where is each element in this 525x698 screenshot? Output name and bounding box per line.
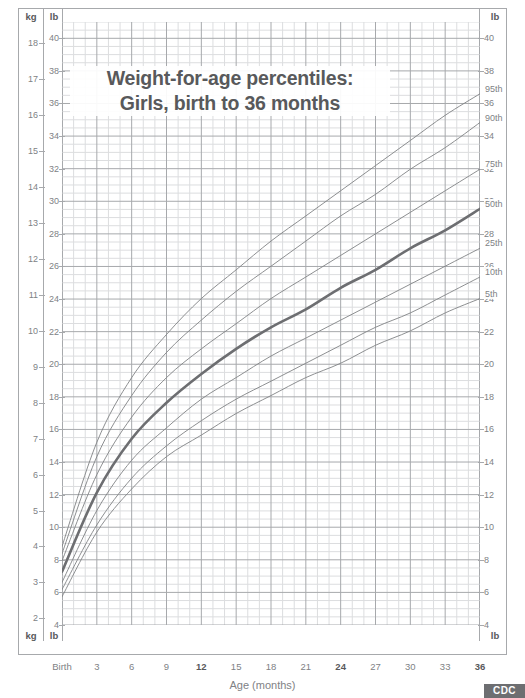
axis-tick-label: 12 [18, 255, 38, 263]
axis-tick-label: 26 [40, 262, 59, 270]
x-axis-tick-label: 36 [460, 661, 500, 672]
axis-tick-label: 22 [484, 328, 501, 336]
axis-tick-mark [39, 331, 45, 332]
axis-tick-label: 24 [40, 295, 59, 303]
axis-tick-label: 14 [484, 458, 501, 466]
chart-title-line1: Weight-for-age percentiles: [70, 66, 390, 91]
axis-tick-mark [39, 546, 45, 547]
axis-tick-mark [478, 625, 484, 626]
axis-tick-label: 8 [18, 399, 38, 407]
right-lb-unit-top: lb [483, 11, 507, 22]
axis-tick-label: 28 [484, 230, 501, 238]
axis-tick-label: 36 [484, 99, 501, 107]
axis-tick-label: 9 [18, 363, 38, 371]
axis-tick-label: 10 [40, 523, 59, 531]
percentile-label-90th: 90th [484, 113, 504, 123]
axis-tick-label: 40 [484, 34, 501, 42]
axis-tick-label: 7 [18, 435, 38, 443]
axis-tick-mark [39, 259, 45, 260]
axis-tick-label: 28 [40, 230, 59, 238]
axis-tick-mark [39, 475, 45, 476]
axis-tick-mark [39, 582, 45, 583]
axis-tick-label: 5 [18, 507, 38, 515]
axis-tick-label: 16 [18, 111, 38, 119]
axis-tick-label: 12 [484, 491, 501, 499]
axis-tick-mark [39, 367, 45, 368]
axis-tick-label: 4 [40, 621, 59, 629]
left-lb-unit-bottom: lb [42, 630, 66, 641]
axis-tick-mark [39, 187, 45, 188]
percentile-label-75th: 75th [484, 159, 504, 169]
left-kg-unit-bottom: kg [19, 630, 43, 641]
chart-title: Weight-for-age percentiles: Girls, birth… [70, 66, 390, 116]
axis-tick-mark [39, 403, 45, 404]
axis-tick-mark [39, 439, 45, 440]
axis-tick-label: 18 [18, 39, 38, 47]
axis-tick-label: 10 [484, 523, 501, 531]
left-kg-unit-top: kg [19, 11, 43, 22]
axis-tick-label: 16 [484, 425, 501, 433]
x-axis-title: Age (months) [0, 679, 525, 691]
axis-tick-label: 8 [40, 556, 59, 564]
percentile-label-5th: 5th [484, 289, 499, 299]
axis-tick-label: 8 [484, 556, 501, 564]
axis-tick-label: 15 [18, 147, 38, 155]
axis-tick-label: 13 [18, 219, 38, 227]
axis-tick-label: 3 [18, 578, 38, 586]
axis-tick-label: 20 [484, 360, 501, 368]
axis-tick-label: 4 [18, 542, 38, 550]
axis-tick-label: 18 [40, 393, 59, 401]
axis-tick-mark [39, 79, 45, 80]
axis-tick-label: 12 [40, 491, 59, 499]
axis-tick-mark [39, 43, 45, 44]
axis-tick-label: 34 [484, 132, 501, 140]
axis-tick-mark [39, 618, 45, 619]
axis-tick-label: 6 [40, 588, 59, 596]
axis-tick-mark [39, 115, 45, 116]
axis-tick-mark [39, 511, 45, 512]
axis-tick-label: 14 [40, 458, 59, 466]
axis-tick-label: 4 [484, 621, 501, 629]
axis-tick-mark [59, 625, 65, 626]
left-lb-unit-top: lb [42, 11, 66, 22]
axis-tick-label: 11 [18, 291, 38, 299]
axis-tick-label: 38 [484, 67, 501, 75]
axis-tick-label: 34 [40, 132, 59, 140]
percentile-label-50th: 50th [484, 199, 504, 209]
axis-tick-mark [39, 295, 45, 296]
axis-tick-label: 14 [18, 183, 38, 191]
axis-tick-mark [39, 223, 45, 224]
axis-tick-label: 18 [484, 393, 501, 401]
axis-tick-label: 2 [18, 614, 38, 622]
axis-tick-label: 36 [40, 99, 59, 107]
percentile-label-95th: 95th [484, 84, 504, 94]
percentile-label-10th: 10th [484, 267, 504, 277]
axis-tick-label: 10 [18, 327, 38, 335]
axis-tick-mark [39, 151, 45, 152]
percentile-label-25th: 25th [484, 238, 504, 248]
axis-tick-label: 32 [40, 165, 59, 173]
axis-tick-label: 40 [40, 34, 59, 42]
axis-tick-label: 30 [40, 197, 59, 205]
axis-tick-label: 38 [40, 67, 59, 75]
axis-tick-label: 17 [18, 75, 38, 83]
axis-tick-label: 16 [40, 425, 59, 433]
chart-title-line2: Girls, birth to 36 months [70, 91, 390, 116]
right-lb-unit-bottom: lb [483, 630, 507, 641]
axis-tick-label: 6 [18, 471, 38, 479]
axis-tick-label: 6 [484, 588, 501, 596]
cdc-logo: CDC [484, 684, 525, 698]
